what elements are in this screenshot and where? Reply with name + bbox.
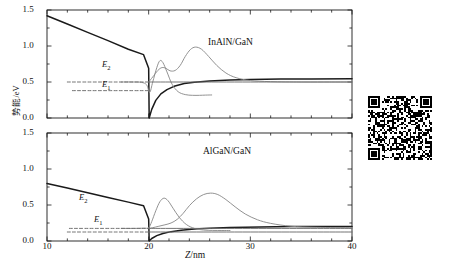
y-tick-label: 0.5: [14, 76, 42, 86]
panel-title-algan-gan: AlGaN/GaN: [203, 146, 251, 156]
x-axis-label: Z/nm: [120, 250, 270, 260]
energy-label-E2-bottom: E2: [79, 192, 87, 204]
y-tick-label: 0.5: [14, 199, 42, 209]
panel-top-frame: [47, 10, 352, 118]
panel-bottom-frame: [47, 133, 352, 241]
panel-title-inaln-gan: InAlN/GaN: [208, 37, 253, 47]
energy-label-E2-top: E2: [102, 59, 110, 71]
energy-label-E1-top: E1: [102, 79, 110, 91]
x-tick-label: 20: [135, 241, 163, 251]
y-tick-label: 1.0: [14, 40, 42, 50]
qr-code: [368, 96, 432, 160]
series-wavefunction-psi2: [149, 47, 352, 82]
x-axis-label-unit: /nm: [190, 250, 205, 260]
x-tick-label: 30: [236, 241, 264, 251]
energy-label-E1-bottom: E1: [94, 214, 102, 226]
series-wavefunction-psi2: [149, 193, 352, 228]
figure-root: 势能/eV Z/nm 102030400.00.51.01.50.00.51.0…: [0, 0, 452, 270]
y-tick-label: 1.5: [14, 4, 42, 14]
x-tick-label: 40: [338, 241, 366, 251]
y-tick-label: 1.0: [14, 163, 42, 173]
series-conduction-band-profile: [47, 16, 352, 118]
y-tick-label: 0.0: [14, 235, 42, 245]
y-tick-label: 1.5: [14, 127, 42, 137]
series-wavefunction-psi1: [121, 198, 230, 230]
y-tick-label: 0.0: [14, 112, 42, 122]
